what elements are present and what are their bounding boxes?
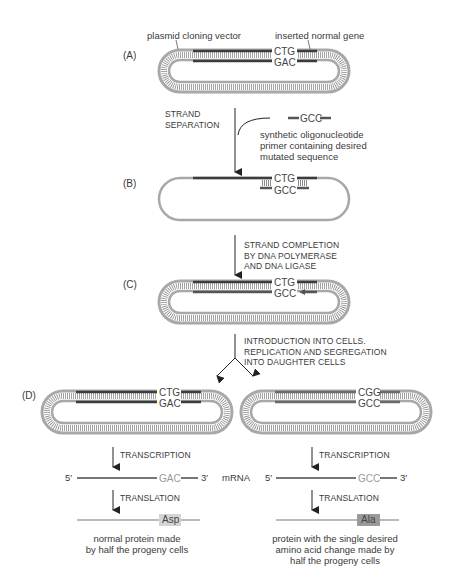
- mutagenesis-diagram: CTG GAC GCC CTG GCC CTG GCC: [0, 0, 452, 588]
- mrna-left-5prime: 5′: [65, 472, 72, 483]
- primer-sequence: GCC: [300, 113, 322, 124]
- caption-transcription-right: TRANSCRIPTION: [319, 450, 390, 461]
- right-protein-description: protein with the single desired amino ac…: [255, 533, 415, 566]
- mrna-label: mRNA: [222, 472, 250, 483]
- plasmid-b: [159, 173, 349, 220]
- seq-a-bottom: GAC: [274, 57, 296, 68]
- panel-label-a: (A): [123, 50, 136, 61]
- panel-label-c: (C): [123, 279, 137, 290]
- seq-b-top: CTG: [274, 173, 295, 184]
- primer-description: synthetic oligonucleotide primer contain…: [260, 129, 367, 162]
- caption-strand-separation: STRAND SEPARATION: [165, 109, 220, 130]
- caption-transcription-left: TRANSCRIPTION: [120, 450, 191, 461]
- seq-a-top: CTG: [274, 46, 295, 57]
- seq-d-right-top: CGG: [358, 387, 381, 398]
- residue-ala: Ala: [361, 514, 376, 525]
- caption-translation-left: TRANSLATION: [120, 493, 180, 504]
- seq-c-bottom: GCC: [274, 288, 296, 299]
- seq-d-left-bottom: GAC: [159, 398, 181, 409]
- mrna-right-3prime: 3′: [400, 472, 407, 483]
- seq-b-bottom: GCC: [274, 185, 296, 196]
- plasmid-a: [159, 40, 349, 92]
- mrna-left-codon: GAC: [159, 473, 181, 484]
- mrna-left-3prime: 3′: [201, 472, 208, 483]
- seq-d-left-top: CTG: [159, 387, 180, 398]
- residue-asp: Asp: [162, 514, 180, 525]
- panel-label-b: (B): [123, 178, 136, 189]
- left-protein-description: normal protein made by half the progeny …: [62, 533, 212, 555]
- plasmid-d-right: [241, 386, 431, 433]
- caption-translation-right: TRANSLATION: [319, 493, 379, 504]
- seq-c-top: CTG: [274, 277, 295, 288]
- caption-strand-completion: STRAND COMPLETION BY DNA POLYMERASE AND …: [244, 240, 339, 272]
- mrna-right-codon: GCC: [358, 473, 380, 484]
- caption-introduction: INTRODUCTION INTO CELLS. REPLICATION AND…: [244, 336, 387, 368]
- panel-label-d: (D): [22, 390, 36, 401]
- plasmid-vector-label: plasmid cloning vector: [147, 30, 241, 41]
- arrow-to-left-daughter: [217, 358, 235, 376]
- plasmid-c: [159, 276, 349, 323]
- inserted-gene-label: inserted normal gene: [275, 30, 364, 41]
- mrna-right-5prime: 5′: [265, 472, 272, 483]
- seq-d-right-bottom: GCC: [358, 398, 380, 409]
- plasmid-d-left: [42, 386, 232, 433]
